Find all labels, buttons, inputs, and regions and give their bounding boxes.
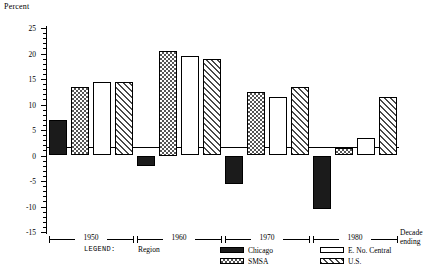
y-tick-minor <box>43 186 47 187</box>
y-tick-minor <box>43 140 47 141</box>
y-tick-major <box>41 28 47 29</box>
x-tick-label-1950: 1950 <box>77 233 105 242</box>
legend-swatch-us-icon <box>320 258 344 264</box>
y-tick-minor <box>43 125 47 126</box>
bar-1960-chicago <box>137 156 155 166</box>
bar-1960-u-s <box>203 59 221 156</box>
y-tick-label: 0 <box>10 152 36 161</box>
y-tick-minor <box>43 222 47 223</box>
legend-label-e-no-central: E. No. Central <box>348 246 391 255</box>
y-tick-label: 10 <box>10 101 36 110</box>
bar-1950-chicago <box>49 120 67 156</box>
legend-item-smsa: SMSA <box>220 256 268 266</box>
bar-1970-smsa <box>247 92 265 156</box>
y-tick-minor <box>43 191 47 192</box>
legend: LEGEND: Region Chicago SMSA E. No. Centr… <box>84 245 424 267</box>
bar-chart: Percent 2520151050-5-10-15 1950196019701… <box>0 0 427 268</box>
y-tick-minor <box>43 145 47 146</box>
y-tick-label: 20 <box>10 50 36 59</box>
y-tick-label: -10 <box>10 203 36 212</box>
y-tick-minor <box>43 59 47 60</box>
legend-item-e-no-central: E. No. Central <box>320 245 391 255</box>
y-tick-minor <box>43 43 47 44</box>
y-tick-minor <box>43 74 47 75</box>
x-axis-decade-brackets: 1950196019701980 <box>0 232 427 246</box>
y-tick-minor <box>43 166 47 167</box>
x-bracket-cap <box>313 236 314 243</box>
y-tick-minor <box>43 38 47 39</box>
legend-label-us: U.S. <box>348 257 361 266</box>
y-tick-minor <box>43 176 47 177</box>
y-tick-minor <box>43 48 47 49</box>
y-tick-minor <box>43 120 47 121</box>
y-tick-minor <box>43 64 47 65</box>
x-axis-title-line1: Decade <box>400 228 427 237</box>
x-bracket-cap <box>309 236 310 243</box>
bar-1960-e-no-central <box>181 56 199 155</box>
x-tick-label-1980: 1980 <box>341 233 369 242</box>
x-bracket-line <box>49 239 75 240</box>
bar-1980-u-s <box>379 97 397 156</box>
x-bracket-cap <box>397 236 398 243</box>
x-tick-label-1970: 1970 <box>253 233 281 242</box>
y-tick-minor <box>43 33 47 34</box>
x-bracket-cap <box>225 236 226 243</box>
legend-label-chicago: Chicago <box>248 246 273 255</box>
legend-item-chicago: Chicago <box>220 245 273 255</box>
y-tick-minor <box>43 196 47 197</box>
legend-swatch-chicago-icon <box>220 247 244 253</box>
y-tick-minor <box>43 227 47 228</box>
y-tick-minor <box>43 99 47 100</box>
x-bracket-line <box>137 239 163 240</box>
y-tick-minor <box>43 94 47 95</box>
bar-1970-u-s <box>291 87 309 156</box>
y-tick-major <box>41 181 47 182</box>
y-tick-major <box>41 54 47 55</box>
y-tick-minor <box>43 161 47 162</box>
x-bracket-cap <box>221 236 222 243</box>
bar-1970-e-no-central <box>269 97 287 156</box>
x-bracket-line <box>225 239 251 240</box>
x-bracket-line <box>195 239 221 240</box>
bar-1980-e-no-central <box>357 138 375 156</box>
y-tick-minor <box>43 115 47 116</box>
x-bracket-line <box>313 239 339 240</box>
y-tick-minor <box>43 89 47 90</box>
legend-label-smsa: SMSA <box>248 257 268 266</box>
y-tick-minor <box>43 69 47 70</box>
y-tick-minor <box>43 110 47 111</box>
x-bracket-line <box>283 239 309 240</box>
y-tick-label: 15 <box>10 75 36 84</box>
x-bracket-cap <box>49 236 50 243</box>
bar-1950-e-no-central <box>93 82 111 156</box>
y-tick-minor <box>43 84 47 85</box>
x-tick-label-1960: 1960 <box>165 233 193 242</box>
bar-1980-chicago <box>313 156 331 210</box>
y-tick-label: 25 <box>10 24 36 33</box>
legend-region-label: Region <box>138 245 160 254</box>
x-bracket-cap <box>137 236 138 243</box>
bar-1950-u-s <box>115 82 133 156</box>
y-tick-major <box>41 130 47 131</box>
x-bracket-line <box>107 239 133 240</box>
legend-swatch-e-no-central-icon <box>320 247 344 253</box>
bar-1960-smsa <box>159 51 177 156</box>
x-axis-title: Decade ending <box>400 228 427 246</box>
x-bracket-line <box>371 239 397 240</box>
bar-1980-smsa <box>335 148 353 156</box>
y-tick-minor <box>43 135 47 136</box>
y-tick-major <box>41 79 47 80</box>
y-tick-major <box>41 105 47 106</box>
y-tick-label: 5 <box>10 126 36 135</box>
legend-title: LEGEND: <box>84 245 116 253</box>
y-tick-minor <box>43 150 47 151</box>
y-tick-minor <box>43 217 47 218</box>
x-bracket-cap <box>133 236 134 243</box>
bar-1970-chicago <box>225 156 243 184</box>
y-tick-major <box>41 207 47 208</box>
y-tick-label: -5 <box>10 177 36 186</box>
y-tick-minor <box>43 171 47 172</box>
y-tick-major <box>41 156 47 157</box>
y-axis-title: Percent <box>4 2 29 11</box>
legend-swatch-smsa-icon <box>220 258 244 264</box>
